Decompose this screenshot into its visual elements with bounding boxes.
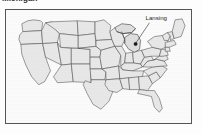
map-frame[interactable]: Lansing bbox=[5, 9, 192, 124]
state-indiana[interactable] bbox=[125, 52, 134, 63]
state-oregon[interactable] bbox=[19, 31, 43, 45]
state-arizona[interactable] bbox=[53, 64, 73, 83]
state-colorado[interactable] bbox=[71, 48, 90, 64]
state-wyoming[interactable] bbox=[59, 34, 78, 49]
state-north-dakota[interactable] bbox=[77, 21, 95, 36]
state-florida[interactable] bbox=[138, 90, 163, 113]
state-washington[interactable] bbox=[22, 20, 43, 32]
state-kentucky[interactable] bbox=[121, 63, 143, 71]
state-connecticut[interactable] bbox=[165, 47, 170, 51]
state-alabama[interactable] bbox=[129, 77, 140, 90]
state-new-mexico[interactable] bbox=[71, 64, 91, 83]
us-map-svg[interactable]: Lansing bbox=[6, 10, 191, 123]
state-oklahoma[interactable] bbox=[90, 69, 106, 80]
map-figure: Michigan bbox=[0, 0, 202, 134]
state-minnesota[interactable] bbox=[95, 20, 112, 41]
state-maine[interactable] bbox=[172, 19, 185, 39]
state-michigan-lower-peninsula[interactable] bbox=[125, 34, 141, 53]
lansing-label: Lansing bbox=[145, 14, 166, 21]
figure-title: Michigan bbox=[2, 0, 37, 3]
lansing-leader-line bbox=[136, 23, 150, 44]
state-south-dakota[interactable] bbox=[78, 34, 96, 49]
lansing-city-dot[interactable] bbox=[134, 42, 138, 46]
